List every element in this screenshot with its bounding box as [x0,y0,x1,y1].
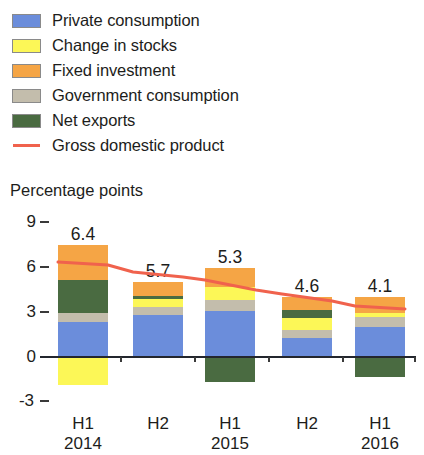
x-axis-year-label: 2016 [340,434,420,454]
chart-plot-area: 9 6 3 0 -3 6.4 5.7 5.3 4. [0,0,424,455]
bar-segment-private-consumption [355,327,405,357]
bar-segment-net-exports [205,357,255,382]
x-axis-label-group-2015: H1 2015 [190,414,270,454]
bar-segment-fixed-investment [133,282,183,296]
bar-segment-government-consumption [58,313,108,322]
bar-segment-private-consumption [282,338,332,357]
bar-segment-fixed-investment [58,245,108,280]
y-tick-label-3: 3 [2,302,36,322]
y-tick-label-6: 6 [2,257,36,277]
table-row [355,297,405,377]
y-tick-label-0: 0 [2,347,36,367]
bar-value-label: 5.3 [200,247,260,268]
x-tick-mark [120,357,122,362]
table-row [205,268,255,382]
x-tick-mark [268,357,270,362]
x-axis-period-label: H2 [296,414,318,433]
bar-value-label: 6.4 [53,224,113,245]
bar-segment-private-consumption [58,322,108,357]
bar-segment-change-in-stocks [58,357,108,385]
bar-value-label: 4.1 [350,276,410,297]
x-axis-year-label: 2014 [43,434,123,454]
y-tick-mark-neg3 [40,400,49,402]
bar-segment-fixed-investment [355,297,405,313]
x-tick-mark [414,357,416,362]
bar-segment-private-consumption [133,315,183,357]
x-axis-label-h2-2014: H2 [118,414,198,434]
bar-value-label: 4.6 [277,276,337,297]
bar-segment-private-consumption [205,311,255,357]
x-tick-mark [342,357,344,362]
y-tick-mark-9 [40,221,49,223]
bar-segment-government-consumption [133,307,183,315]
bar-segment-net-exports [282,310,332,318]
bar-segment-government-consumption [355,317,405,327]
x-axis-period-label: H1 [72,414,94,433]
x-axis-label-group-2016: H1 2016 [340,414,420,454]
x-axis-label-group-2014: H1 2014 [43,414,123,454]
table-row [282,297,332,357]
y-tick-label-9: 9 [2,212,36,232]
bar-segment-net-exports [58,280,108,313]
x-axis-period-label: H1 [369,414,391,433]
bar-value-label: 5.7 [128,261,188,282]
table-row [58,245,108,385]
bar-segment-fixed-investment [282,297,332,310]
x-axis-year-label: 2015 [190,434,270,454]
bar-segment-fixed-investment [205,268,255,287]
bar-segment-net-exports [355,357,405,377]
x-axis-zero-line [40,356,416,358]
y-tick-mark-3 [40,311,49,313]
x-axis-label-h2-2015: H2 [267,414,347,434]
x-axis-period-label: H2 [147,414,169,433]
bar-segment-change-in-stocks [133,299,183,307]
y-tick-label-neg3: -3 [0,391,34,411]
bar-segment-change-in-stocks [282,318,332,330]
bar-segment-change-in-stocks [205,287,255,300]
bar-segment-government-consumption [282,330,332,338]
y-tick-mark-6 [40,266,49,268]
x-tick-mark [194,357,196,362]
bar-segment-government-consumption [205,300,255,311]
table-row [133,282,183,357]
x-axis-period-label: H1 [219,414,241,433]
